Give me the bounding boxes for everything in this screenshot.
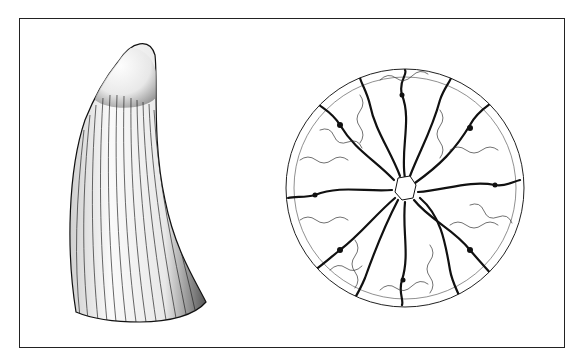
illustration-canvas xyxy=(0,0,584,362)
tooth-cross-section xyxy=(286,69,524,307)
fossil-tooth xyxy=(70,40,215,322)
